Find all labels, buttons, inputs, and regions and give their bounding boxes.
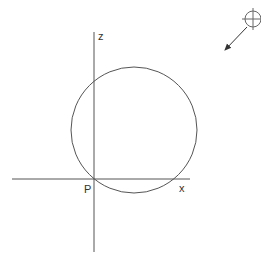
diagram-canvas: z x P bbox=[0, 0, 261, 260]
origin-label: P bbox=[84, 183, 91, 195]
direction-arrow-icon bbox=[225, 27, 247, 50]
north-indicator-icon bbox=[242, 8, 261, 30]
x-axis-label: x bbox=[179, 182, 185, 194]
z-axis-label: z bbox=[98, 30, 104, 42]
circle-shape bbox=[71, 67, 197, 193]
